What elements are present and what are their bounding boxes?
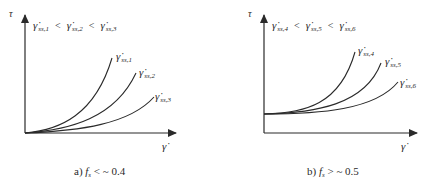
caption-prefix: a) xyxy=(74,165,83,177)
term-sub: ss,2 xyxy=(72,25,83,33)
panel-b-x-axis-label: γ̇ xyxy=(401,141,405,152)
curve-symbol: γ̇ xyxy=(116,50,120,62)
term-sub: ss,6 xyxy=(345,25,356,33)
panel-a-curve-2 xyxy=(25,73,136,133)
term: γ̇ xyxy=(33,19,37,31)
caption-relation: < ~ 0.4 xyxy=(94,165,125,177)
panel-a-curve-3-label: γ̇ss,3 xyxy=(155,91,171,104)
caption-var-sub: s xyxy=(88,171,91,179)
curve-symbol: γ̇ xyxy=(155,90,159,102)
panel-b-tau-label: τ xyxy=(248,9,252,19)
term-sub: ss,5 xyxy=(311,25,322,33)
panel-a-tau-label: τ xyxy=(9,9,13,19)
term-sub: ss,4 xyxy=(277,25,288,33)
panel-b-caption: b) fs > ~ 0.5 xyxy=(307,166,359,179)
panel-b-curve-6-label: γ̇ss,6 xyxy=(400,77,416,90)
panel-a-curves xyxy=(25,58,154,133)
curve-sub: ss,5 xyxy=(390,61,401,69)
panel-b-curve-5 xyxy=(264,63,381,114)
panel-b-curve-6 xyxy=(264,82,398,114)
panel-b-curve-5-label: γ̇ss,5 xyxy=(385,56,401,69)
panel-b-curves xyxy=(264,52,398,114)
curve-sub: ss,6 xyxy=(405,82,416,90)
curve-symbol: γ̇ xyxy=(385,55,389,67)
term: γ̇ xyxy=(306,19,310,31)
panel-a-curve-1-label: γ̇ss,1 xyxy=(116,51,132,64)
caption-var-sub: s xyxy=(322,171,325,179)
less-than: < xyxy=(328,20,334,31)
panel-a-curve-2-label: γ̇ss,2 xyxy=(139,67,155,80)
term-sub: ss,1 xyxy=(38,25,49,33)
curve-symbol: γ̇ xyxy=(400,76,404,88)
curve-sub: ss,1 xyxy=(121,56,132,64)
caption-relation: > ~ 0.5 xyxy=(327,165,358,177)
curve-sub: ss,3 xyxy=(160,96,171,104)
panel-b-ordering: γ̇ss,4<γ̇ss,5<γ̇ss,6 xyxy=(272,20,355,33)
less-than: < xyxy=(294,20,300,31)
caption-prefix: b) xyxy=(307,165,316,177)
curve-symbol: γ̇ xyxy=(139,66,143,78)
term: γ̇ xyxy=(67,19,71,31)
term-sub: ss,3 xyxy=(106,25,117,33)
panel-a-ordering: γ̇ss,1<γ̇ss,2<γ̇ss,3 xyxy=(33,20,116,33)
panel-a-curve-1 xyxy=(25,58,112,133)
term: γ̇ xyxy=(272,19,276,31)
panel-b-curve-4-label: γ̇ss,4 xyxy=(358,45,374,58)
panel-a-caption: a) fs < ~ 0.4 xyxy=(74,166,125,179)
panel-b-curve-4 xyxy=(264,52,355,114)
term: γ̇ xyxy=(100,19,104,31)
curve-sub: ss,4 xyxy=(363,50,374,58)
curve-symbol: γ̇ xyxy=(358,44,362,56)
panel-a-x-axis-label: γ̇ xyxy=(162,141,166,152)
curve-sub: ss,2 xyxy=(144,72,155,80)
less-than: < xyxy=(55,20,61,31)
term: γ̇ xyxy=(339,19,343,31)
less-than: < xyxy=(89,20,95,31)
